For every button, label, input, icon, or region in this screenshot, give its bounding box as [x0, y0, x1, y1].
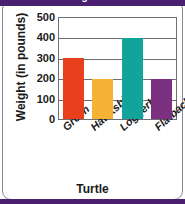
bar-series	[59, 18, 176, 119]
x-axis-title: Turtle	[0, 182, 185, 196]
chart-figure: Maximum Weights of Sea Turtles Weight (i…	[0, 0, 185, 204]
y-tick-300: 300	[25, 53, 55, 64]
bar-loggerhead	[122, 38, 143, 119]
plot-area	[58, 17, 177, 120]
y-tick-400: 400	[25, 32, 55, 43]
y-tick-100: 100	[25, 94, 55, 105]
y-axis-tick-labels: 500 400 300 200 100 0	[24, 0, 55, 204]
y-tick-0: 0	[25, 114, 55, 125]
bar-flatback	[151, 79, 172, 119]
figure-bottom-band	[0, 199, 185, 204]
bar-hawksbill	[92, 79, 113, 119]
chart-title-band: Maximum Weights of Sea Turtles	[0, 0, 185, 6]
bar-green	[63, 58, 84, 119]
y-tick-200: 200	[25, 73, 55, 84]
y-tick-500: 500	[25, 12, 55, 23]
chart-title: Maximum Weights of Sea Turtles	[0, 0, 185, 2]
